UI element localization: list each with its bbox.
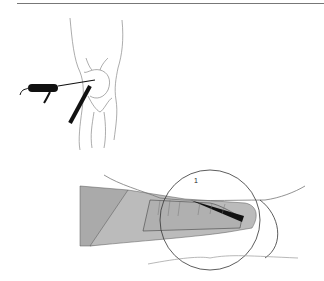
knee-drawing bbox=[70, 18, 123, 150]
figure-illustration bbox=[0, 0, 324, 281]
cross-section-drawing bbox=[80, 170, 305, 270]
needle-icon bbox=[70, 86, 90, 123]
circle-label: 1 bbox=[194, 177, 198, 184]
